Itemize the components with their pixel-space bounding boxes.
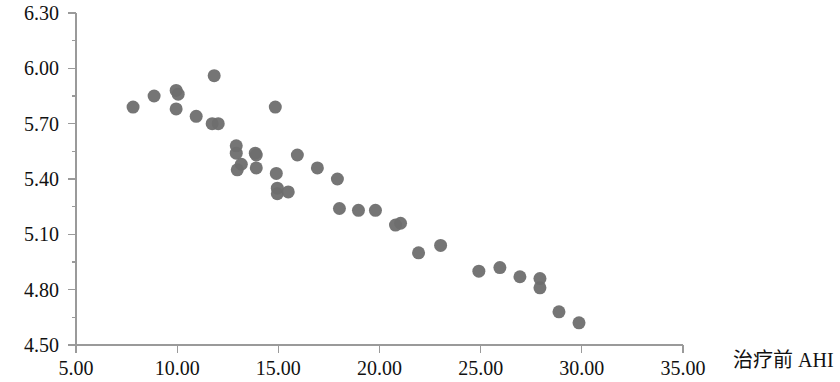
x-axis-title: 治疗前 AHI: [733, 349, 834, 371]
y-tick-label: 5.10: [24, 223, 59, 245]
y-tick-label: 5.40: [24, 168, 59, 190]
data-point: [434, 239, 447, 252]
y-tick-label: 5.70: [24, 113, 59, 135]
data-point: [127, 101, 140, 114]
data-point: [389, 219, 402, 232]
data-point: [369, 204, 382, 217]
data-point: [231, 163, 244, 176]
data-point: [311, 161, 324, 174]
y-tick-label: 6.00: [24, 57, 59, 79]
y-tick-label: 6.30: [24, 2, 59, 24]
x-tick-label: 25.00: [458, 357, 503, 379]
chart-canvas: 4.504.805.105.405.706.006.30 5.0010.0015…: [0, 0, 840, 382]
data-point: [230, 147, 243, 160]
x-tick-label: 5.00: [59, 357, 94, 379]
x-tick-label: 30.00: [559, 357, 604, 379]
y-tick-label: 4.50: [24, 334, 59, 356]
data-point: [269, 101, 282, 114]
data-point: [573, 316, 586, 329]
data-point: [533, 281, 546, 294]
scatter-plot-figure: 4.504.805.105.405.706.006.30 5.0010.0015…: [0, 0, 840, 382]
data-point: [250, 149, 263, 162]
data-point: [271, 187, 284, 200]
data-point: [170, 102, 183, 115]
data-point: [493, 261, 506, 274]
y-tick-label: 4.80: [24, 279, 59, 301]
x-tick-label: 15.00: [256, 357, 301, 379]
data-point: [270, 167, 283, 180]
x-tick-label: 10.00: [155, 357, 200, 379]
data-point: [352, 204, 365, 217]
data-point: [282, 185, 295, 198]
data-point: [190, 110, 203, 123]
data-point: [333, 202, 346, 215]
data-point: [552, 305, 565, 318]
data-point: [513, 270, 526, 283]
x-tick-label: 35.00: [661, 357, 706, 379]
data-point: [472, 265, 485, 278]
data-point: [212, 117, 225, 130]
data-point: [250, 161, 263, 174]
x-tick-label: 20.00: [357, 357, 402, 379]
data-point: [412, 246, 425, 259]
data-point: [331, 173, 344, 186]
data-point: [291, 149, 304, 162]
plot-background: [0, 0, 840, 382]
data-point: [172, 88, 185, 101]
data-point: [208, 69, 221, 82]
data-point: [148, 90, 161, 103]
